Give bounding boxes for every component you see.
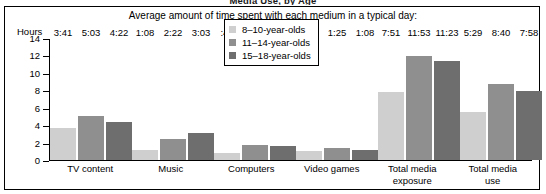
bar[interactable] [460,112,486,160]
x-axis-line [49,160,532,161]
bar-value-label: 7:51 [382,27,401,38]
bar-group: 7:5111:5311:23 [378,39,460,160]
y-axis-tick-label: 6 [35,102,40,115]
bar-column[interactable]: 5:29 [460,39,486,160]
y-axis-tick-label: 12 [29,49,40,62]
bar-value-label: 1:25 [328,27,347,38]
y-axis-tick: 14 [43,39,49,40]
y-axis-tick: 10 [43,74,49,75]
chart-panel: Average amount of time spent with each m… [4,6,540,190]
bar[interactable] [270,146,296,160]
x-axis-category-label: Computers [211,163,292,187]
bar[interactable] [160,139,186,160]
legend-swatch-icon [229,39,236,46]
bar-value-label: 8:40 [492,27,511,38]
x-axis-category-label: TV content [50,163,131,187]
x-axis-category-label: Music [131,163,212,187]
legend-item[interactable]: 8–10-year-olds [229,23,311,36]
y-axis-tick-label: 8 [35,84,40,97]
y-axis-tick-label: 10 [29,67,40,80]
chart-legend: 8–10-year-olds11–14-year-olds15–18-year-… [224,19,319,66]
bar-column[interactable]: 4:22 [106,39,132,160]
legend-swatch-icon [229,52,236,59]
y-axis-tick: 12 [43,56,49,57]
bar[interactable] [242,145,268,160]
bar-column[interactable]: 3:41 [50,39,76,160]
bar-value-label: 11:53 [407,27,430,38]
bar-column[interactable]: 7:51 [378,39,404,160]
y-axis-tick-label: 0 [35,154,40,167]
y-axis-tick: 2 [43,144,49,145]
bar[interactable] [516,91,542,160]
bar-group: 5:298:407:58 [460,39,542,160]
bar-column[interactable]: 1:08 [132,39,158,160]
bar-value-label: 11:23 [435,27,458,38]
bar-value-label: 5:29 [464,27,483,38]
bar[interactable] [214,153,240,160]
y-axis-tick: 4 [43,126,49,127]
x-axis-category-label: Total mediause [453,163,534,187]
bar-value-label: 3:03 [192,27,211,38]
bar[interactable] [434,61,460,160]
bar-value-label: 2:22 [164,27,183,38]
bar-value-label: 1:08 [136,27,155,38]
bar-column[interactable]: 1:08 [352,39,378,160]
legend-label: 15–18-year-olds [242,49,311,62]
bar-column[interactable]: 3:03 [188,39,214,160]
bar[interactable] [324,148,350,160]
bar-value-label: 5:03 [82,27,101,38]
legend-item[interactable]: 11–14-year-olds [229,36,311,49]
bar[interactable] [406,56,432,160]
bar-group: 1:082:223:03 [132,39,214,160]
bar-value-label: 1:08 [356,27,375,38]
x-axis-category-label: Total mediaexposure [372,163,453,187]
y-axis-tick: 6 [43,109,49,110]
bar[interactable] [296,151,322,160]
bar-column[interactable]: 1:25 [324,39,350,160]
figure-heading: Media Use, by Age [0,0,546,5]
bar-column[interactable]: 11:53 [406,39,432,160]
legend-label: 8–10-year-olds [242,23,305,36]
y-axis-tick-label: 4 [35,119,40,132]
bar[interactable] [488,84,514,160]
legend-label: 11–14-year-olds [242,36,310,49]
bar[interactable] [378,92,404,160]
bar-value-label: 7:58 [520,27,539,38]
bar[interactable] [352,150,378,160]
legend-swatch-icon [229,26,236,33]
x-axis-labels: TV contentMusicComputersVideo gamesTotal… [50,163,533,187]
bar[interactable] [78,116,104,160]
y-axis-tick-label: 2 [35,137,40,150]
bar[interactable] [188,133,214,160]
bar-column[interactable]: 8:40 [488,39,514,160]
bar[interactable] [106,122,132,160]
media-use-chart-figure: Media Use, by Age Average amount of time… [0,0,546,194]
bar-column[interactable]: 7:58 [516,39,542,160]
bar-column[interactable]: 5:03 [78,39,104,160]
x-axis-category-label: Video games [292,163,373,187]
bar-value-label: 3:41 [54,27,73,38]
bar-column[interactable]: 2:22 [160,39,186,160]
y-axis-tick: 0 [43,161,49,162]
y-axis-tick-label: 14 [29,32,40,45]
bar[interactable] [132,150,158,160]
bar-column[interactable]: 11:23 [434,39,460,160]
bar-value-label: 4:22 [110,27,129,38]
legend-item[interactable]: 15–18-year-olds [229,49,311,62]
bar[interactable] [50,128,76,160]
y-axis-tick: 8 [43,91,49,92]
bar-group: 3:415:034:22 [50,39,132,160]
